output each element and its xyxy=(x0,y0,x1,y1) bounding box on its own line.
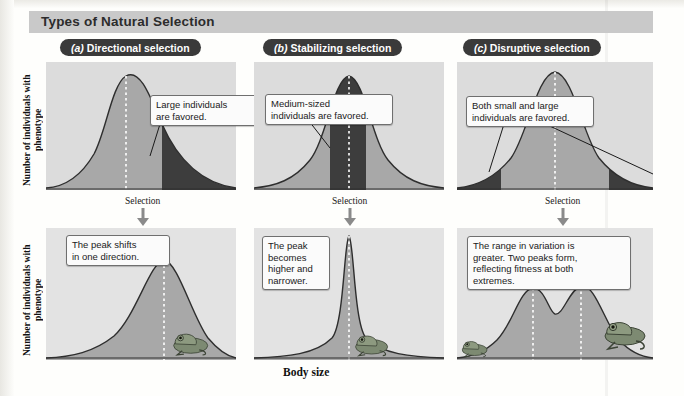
panel-header-directional: (a) Directional selection xyxy=(60,39,201,56)
scan-edge-left xyxy=(0,0,14,396)
panel-name-a: Directional selection xyxy=(87,42,190,54)
panel-header-disruptive: (c) Disruptive selection xyxy=(463,39,601,56)
x-axis-label: Body size xyxy=(283,366,329,378)
panel-name-b: Stabilizing selection xyxy=(290,42,391,54)
callout-stabilizing-before: Medium-sized individuals are favored. xyxy=(265,94,393,125)
selection-arrow-disruptive xyxy=(556,208,570,226)
selection-arrow-stabilizing xyxy=(343,208,357,226)
callout-disruptive-before: Both small and large individuals are fav… xyxy=(466,96,594,127)
figure-page: Types of Natural Selection (a) Direction… xyxy=(0,0,684,396)
scan-edge-top xyxy=(0,0,684,8)
figure-title-bar: Types of Natural Selection xyxy=(29,11,653,33)
frog-icon-disruptive-right xyxy=(605,323,645,349)
panel-letter-b: (b) xyxy=(274,42,287,54)
callout-disruptive-after: The range in variation is greater. Two p… xyxy=(467,236,631,290)
callout-directional-after: The peak shifts in one direction. xyxy=(66,235,170,266)
selection-label-disruptive: Selection xyxy=(545,196,580,206)
figure-title: Types of Natural Selection xyxy=(41,14,215,29)
callout-directional-before: Large individuals are favored. xyxy=(150,95,266,126)
y-axis-label-bottom: Number of individuals with phenotype xyxy=(22,240,44,360)
panel-letter-a: (a) xyxy=(71,42,84,54)
callout-stabilizing-after: The peak becomes higher and narrower. xyxy=(262,236,330,290)
panel-name-c: Disruptive selection xyxy=(490,42,590,54)
y-axis-label-top: Number of individuals with phenotype xyxy=(22,70,44,190)
panel-letter-c: (c) xyxy=(474,42,487,54)
selection-arrow-directional xyxy=(136,208,150,226)
selection-label-directional: Selection xyxy=(125,196,160,206)
panel-header-stabilizing: (b) Stabilizing selection xyxy=(263,39,402,56)
curve-stabilizing-before xyxy=(254,62,444,190)
plot-stabilizing-before xyxy=(254,62,444,190)
selection-label-stabilizing: Selection xyxy=(332,196,367,206)
